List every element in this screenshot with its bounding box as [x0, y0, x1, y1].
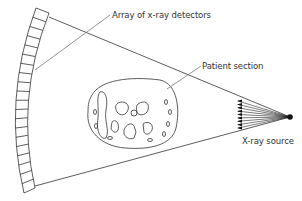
- leader-detectors: [35, 15, 110, 70]
- label-source: X-ray source: [242, 136, 294, 146]
- fan-edge-bottom: [35, 117, 290, 186]
- fan-rays: [237, 100, 290, 130]
- leader-patient: [167, 66, 201, 89]
- label-detectors: Array of x-ray detectors: [112, 10, 211, 20]
- detector-segments: [15, 17, 45, 184]
- patient-section: [88, 79, 178, 149]
- x-ray-source-icon: [287, 114, 293, 120]
- label-patient: Patient section: [202, 61, 263, 71]
- detector-array-inner: [28, 13, 49, 188]
- ct-scan-diagram: [0, 0, 302, 201]
